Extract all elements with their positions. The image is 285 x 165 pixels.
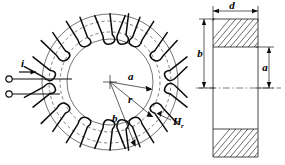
- label-field-subscript: r: [181, 122, 184, 130]
- label-section-inner-a: a: [262, 61, 268, 73]
- hatch-upper-core: [202, 14, 282, 52]
- radius-a-arrowhead: [146, 86, 153, 92]
- toroid-front-view: i a r b: [6, 14, 187, 150]
- terminal-bottom: [6, 91, 12, 97]
- hatch-lower-core: [202, 124, 282, 162]
- label-radius-r: r: [128, 93, 133, 105]
- dim-d-arrow-left: [213, 9, 219, 14]
- figure-canvas: i a r b: [0, 0, 285, 165]
- dim-a-arrow-top: [267, 47, 271, 53]
- dim-a-arrow-bottom: [267, 82, 271, 88]
- label-section-height-b: b: [197, 47, 203, 59]
- cross-section-view: d b a: [196, 0, 282, 162]
- label-radius-a: a: [128, 70, 134, 82]
- winding-turn: [95, 120, 115, 150]
- label-radius-b: b: [112, 112, 118, 124]
- dim-b-arrow-bottom: [202, 82, 206, 88]
- winding-turn: [24, 83, 55, 107]
- label-section-width-d: d: [229, 0, 235, 11]
- winding-turn: [95, 14, 115, 44]
- toroid-figure: i a r b: [0, 0, 285, 165]
- winding-turn: [24, 57, 55, 81]
- terminal-leads: [6, 76, 72, 97]
- winding-turn: [164, 57, 187, 81]
- winding-turn: [41, 33, 70, 61]
- dim-b-arrow-top: [202, 19, 206, 25]
- current-arrow-head: [31, 70, 37, 75]
- radius-a-line: [110, 82, 151, 89]
- current-arrow: [19, 70, 36, 75]
- winding-turn: [164, 83, 187, 107]
- dim-d-arrow-right: [252, 9, 258, 14]
- terminal-top: [6, 76, 12, 82]
- winding-turn: [41, 103, 70, 131]
